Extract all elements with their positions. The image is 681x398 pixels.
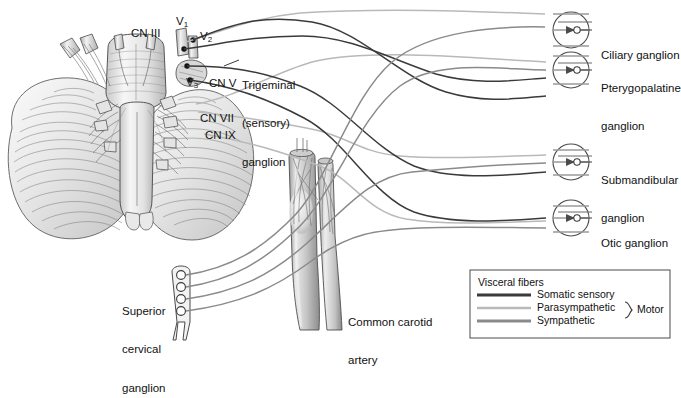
legend-label-parasympathetic: Parasympathetic [537, 302, 615, 314]
callout-line: Common carotid [348, 316, 432, 329]
callout-line: cervical [122, 343, 165, 356]
label-v2: V2 [200, 30, 212, 45]
ganglion-label-line: ganglion [601, 120, 681, 133]
callout-line: ganglion [122, 382, 165, 395]
ciliary-ganglion-symbol [553, 12, 592, 48]
label-pterygopalatine-ganglion: Pterygopalatine ganglion [601, 56, 681, 146]
callout-line: Superior [122, 305, 165, 318]
label-cn-ix: CN IX [205, 129, 236, 142]
label-cn-vii: CN VII [200, 112, 234, 125]
callout-line: artery [348, 354, 432, 367]
common-carotid-artery-illustration [289, 138, 342, 330]
superior-cervical-ganglion-illustration [172, 266, 190, 340]
ganglion-label-line: Submandibular [601, 174, 678, 187]
legend-brace-label-motor: Motor [637, 304, 664, 316]
callout-line: (sensory) [242, 117, 295, 130]
callout-line: ganglion [242, 156, 295, 169]
label-v3: V3 [186, 76, 198, 91]
callout-trigeminal-ganglion: Trigeminal (sensory) ganglion [242, 53, 295, 182]
legend-label-somatic-sensory: Somatic sensory [537, 289, 615, 301]
ganglion-label-line: Otic ganglion [601, 237, 668, 250]
callout-superior-cervical-ganglion: Superior cervical ganglion [122, 279, 165, 398]
label-cn-iii: CN III [131, 27, 160, 40]
pterygopalatine-ganglion-symbol [553, 52, 592, 88]
label-otic-ganglion: Otic ganglion [601, 211, 668, 263]
otic-ganglion-symbol [553, 200, 592, 236]
submandibular-ganglion-symbol [553, 144, 592, 180]
ganglion-symbols [553, 12, 592, 236]
label-cn-v: CN V [209, 77, 236, 90]
legend-title: Visceral fibers [478, 277, 544, 289]
label-v1: V1 [176, 15, 188, 30]
callout-leader-lines [224, 60, 239, 66]
legend-label-sympathetic: Sympathetic [537, 315, 595, 327]
callout-common-carotid-artery: Common carotid artery [348, 290, 432, 380]
callout-line: Trigeminal [242, 79, 295, 92]
ganglion-label-line: Pterygopalatine [601, 82, 681, 95]
